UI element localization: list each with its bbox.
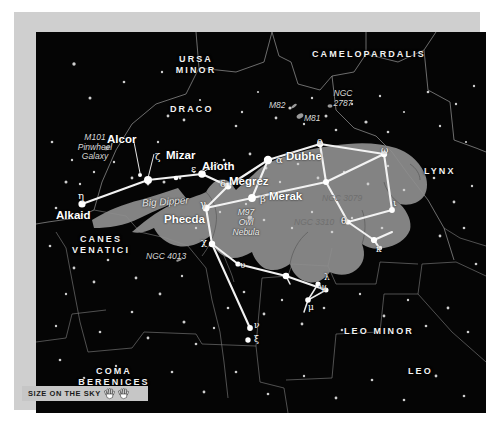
star-upsilon (235, 261, 240, 266)
star-psi-leg (283, 273, 290, 280)
star-merak (248, 194, 256, 202)
star-lambda (315, 281, 320, 286)
m81-marker (296, 112, 305, 120)
m97-marker (248, 216, 253, 221)
sky-graphics (36, 32, 486, 413)
star-megrez (225, 183, 232, 190)
star-80uma (174, 176, 179, 181)
star-iota (389, 207, 395, 213)
open-hand-icon (104, 388, 115, 400)
star-alkaid (78, 200, 85, 207)
star-kappa-b (378, 246, 382, 250)
star-omicron (317, 141, 323, 147)
chart-frame: URSA MINOR DRACO CAMELOPARDALIS LYNX CAN… (14, 12, 480, 410)
star-kappa (371, 237, 377, 243)
star-omega (381, 151, 387, 157)
ngc4013-marker (176, 258, 182, 262)
size-on-sky-label: SIZE ON THE SKY (28, 389, 101, 398)
star-xi (245, 337, 250, 342)
open-hand-icon (118, 388, 129, 400)
star-dubhe (264, 156, 272, 164)
m101-marker (103, 145, 110, 151)
star-alcor (138, 173, 142, 177)
star-phecda (203, 205, 210, 212)
star-chi (209, 241, 215, 247)
ngc2787-marker (328, 104, 333, 108)
sky-map: URSA MINOR DRACO CAMELOPARDALIS LYNX CAN… (36, 32, 486, 413)
star-theta (345, 219, 350, 224)
star-nu (247, 325, 253, 331)
star-mu (305, 297, 311, 303)
star-mu-a (324, 288, 329, 293)
star-chart-page: URSA MINOR DRACO CAMELOPARDALIS LYNX CAN… (0, 0, 495, 426)
size-on-sky-legend: SIZE ON THE SKY (22, 386, 148, 401)
star-psi (323, 179, 329, 185)
m82-marker (291, 103, 298, 109)
